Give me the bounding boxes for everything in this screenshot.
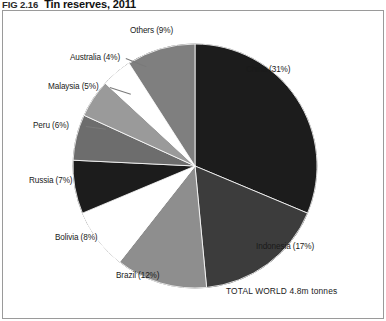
slice-label-others: Others (9%) xyxy=(130,27,173,35)
figure-title: Tin reserves, 2011 xyxy=(44,0,136,10)
slice-label-indonesia: Indonesia (17%) xyxy=(256,243,314,251)
slice-label-peru: Peru (6%) xyxy=(33,122,69,130)
slice-label-china: China (31%) xyxy=(246,66,290,74)
figure-number: FIG 2.16 xyxy=(2,0,38,10)
total-world-label: TOTAL WORLD 4.8m tonnes xyxy=(226,286,337,296)
chart-frame xyxy=(2,10,384,319)
slice-label-brazil: Brazil (12%) xyxy=(116,272,159,280)
slice-label-malaysia: Malaysia (5%) xyxy=(48,83,99,91)
slice-label-bolivia: Bolivia (8%) xyxy=(55,234,97,242)
slice-label-australia: Australia (4%) xyxy=(70,54,120,62)
slice-label-russia: Russia (7%) xyxy=(29,177,73,185)
